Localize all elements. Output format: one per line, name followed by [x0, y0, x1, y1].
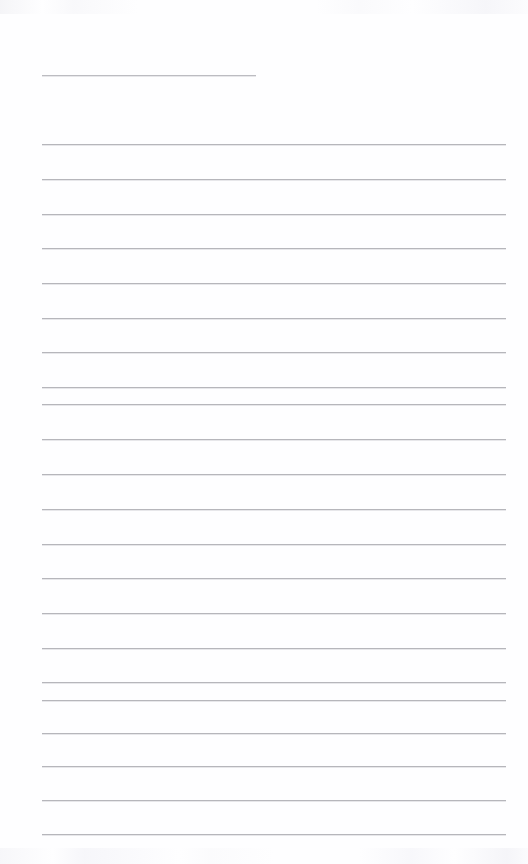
ruled-line[interactable] [42, 352, 506, 353]
ruled-line[interactable] [42, 733, 506, 734]
ruled-line[interactable] [42, 578, 506, 579]
ruled-line[interactable] [42, 544, 506, 545]
ruled-line[interactable] [42, 248, 506, 249]
ruled-line[interactable] [42, 509, 506, 510]
ruled-line[interactable] [42, 474, 506, 475]
ruled-line[interactable] [42, 318, 506, 319]
ruled-line[interactable] [42, 648, 506, 649]
ruled-line[interactable] [42, 214, 506, 215]
ruled-line[interactable] [42, 682, 506, 683]
ruled-line[interactable] [42, 387, 506, 388]
ruled-line[interactable] [42, 144, 506, 145]
ruled-line[interactable] [42, 404, 506, 405]
ruled-line[interactable] [42, 439, 506, 440]
ruled-line[interactable] [42, 613, 506, 614]
ruled-line[interactable] [42, 700, 506, 701]
writing-area[interactable] [0, 0, 528, 864]
ruled-line[interactable] [42, 834, 506, 835]
title-rule[interactable] [42, 75, 256, 76]
ruled-line[interactable] [42, 179, 506, 180]
ruled-line[interactable] [42, 283, 506, 284]
notebook-page [0, 0, 528, 864]
ruled-line[interactable] [42, 766, 506, 767]
ruled-line[interactable] [42, 800, 506, 801]
